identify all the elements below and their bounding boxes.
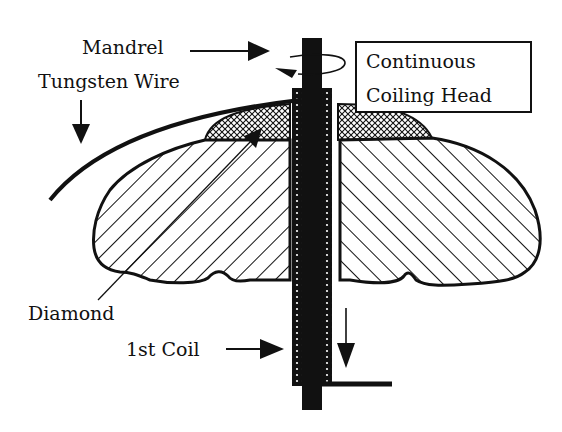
coiling-head-right — [340, 138, 540, 285]
label-tungsten-wire: Tungsten Wire — [38, 70, 180, 92]
label-first-coil: 1st Coil — [126, 338, 200, 360]
first-coil-arrow-icon — [226, 339, 284, 359]
coiling-head-callout: Continuous Coiling Head — [356, 42, 531, 112]
feed-direction-arrow-icon — [337, 308, 355, 368]
mandrel-arrow-icon — [190, 41, 270, 61]
mandrel — [302, 38, 322, 410]
callout-line2: Coiling Head — [366, 84, 492, 106]
coiling-head-diagram: Mandrel Tungsten Wire Diamond 1st Coil C… — [0, 0, 562, 432]
tungsten-wire-arrow-icon — [72, 100, 90, 144]
label-mandrel: Mandrel — [82, 36, 164, 58]
callout-line1: Continuous — [366, 50, 476, 72]
label-diamond: Diamond — [28, 302, 115, 324]
coiling-head-left — [94, 140, 290, 283]
